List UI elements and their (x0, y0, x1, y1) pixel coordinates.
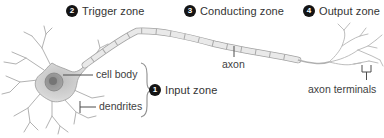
zone-label-output: 4 Output zone (303, 5, 380, 17)
zone-3-label: Conducting zone (200, 5, 284, 17)
axon-terminals-drawing (329, 23, 383, 66)
axon-drawing (85, 31, 329, 65)
zone-3-badge: 3 (184, 5, 196, 17)
zone-1-label: Input zone (165, 84, 217, 96)
neuron-artwork (0, 0, 384, 138)
zone-label-trigger: 2 Trigger zone (66, 5, 145, 17)
axon-label: axon (222, 58, 245, 70)
cell-body-label-text: cell body (96, 68, 137, 80)
zone-2-label: Trigger zone (82, 5, 145, 17)
dendrites-label-text: dendrites (99, 100, 142, 112)
zone-2-badge: 2 (66, 5, 78, 17)
axon-terminals-label-text: axon terminals (308, 83, 376, 95)
dendrites-bracket (80, 101, 96, 113)
zone-1-badge: 1 (149, 84, 161, 96)
neuron-diagram: 2 Trigger zone 3 Conducting zone 4 Outpu… (0, 0, 384, 138)
axon-label-text: axon (222, 58, 245, 70)
axon-terminals-bracket (362, 65, 371, 80)
zone-4-badge: 4 (303, 5, 315, 17)
zone-label-input: 1 Input zone (149, 84, 217, 96)
cell-body-drawing (35, 63, 89, 102)
zone-4-label: Output zone (319, 5, 380, 17)
axon-terminals-label: axon terminals (308, 83, 376, 95)
nucleolus-drawing (49, 77, 57, 85)
cell-body-label: cell body (96, 68, 137, 80)
zone-label-conducting: 3 Conducting zone (184, 5, 284, 17)
dendrites-label: dendrites (99, 100, 142, 112)
